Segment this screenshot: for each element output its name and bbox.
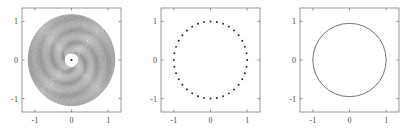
- panel-scatter-circle: -101-101: [139, 0, 278, 136]
- y-tick-label: -1: [289, 95, 296, 104]
- scatter-point: [191, 26, 193, 28]
- scatter-point: [178, 40, 180, 42]
- x-tick-label: -1: [309, 116, 316, 125]
- x-tick-label: 0: [348, 116, 352, 125]
- scatter-point: [228, 26, 230, 28]
- panel-2-axes: -101-101: [150, 8, 260, 125]
- scatter-point: [241, 78, 243, 80]
- scatter-point: [244, 72, 246, 74]
- scatter-point: [216, 21, 218, 23]
- scatter-point: [197, 95, 199, 97]
- scatter-point: [191, 92, 193, 94]
- scatter-point: [173, 59, 175, 61]
- y-tick-label: 0: [292, 56, 296, 65]
- x-tick-label: 1: [384, 116, 388, 125]
- y-tick-label: -1: [150, 95, 157, 104]
- scatter-point: [210, 21, 212, 23]
- y-tick-label: 1: [153, 17, 157, 26]
- panel-spiral-rings: -101-101: [0, 0, 139, 136]
- three-panel-figure: -101-101 -101-101 -101-101: [0, 0, 417, 136]
- scatter-point: [246, 59, 248, 61]
- y-tick-label: 1: [292, 17, 296, 26]
- panel-unit-circle: -101-101: [278, 0, 417, 136]
- center-point: [70, 59, 72, 61]
- scatter-point: [246, 66, 248, 68]
- x-tick-label: 0: [209, 116, 213, 125]
- scatter-point: [238, 84, 240, 86]
- scatter-point: [246, 52, 248, 54]
- panel-2-svg: -101-101: [139, 0, 278, 136]
- scatter-point: [181, 84, 183, 86]
- panel-1-axes: -101-101: [11, 8, 121, 125]
- scatter-point: [175, 46, 177, 48]
- scatter-point: [203, 97, 205, 99]
- scatter-point: [233, 89, 235, 91]
- x-tick-label: 1: [106, 116, 110, 125]
- scatter-point: [222, 95, 224, 97]
- y-tick-label: 0: [14, 56, 18, 65]
- panel-3-axes: -101-101: [289, 8, 399, 125]
- scatter-point: [175, 72, 177, 74]
- scatter-point: [244, 46, 246, 48]
- scatter-point: [210, 98, 212, 100]
- scatter-point: [186, 89, 188, 91]
- scatter-point: [173, 52, 175, 54]
- unit-circle-path: [313, 23, 386, 96]
- scatter-point-group: [173, 21, 248, 100]
- y-tick-label: -1: [11, 95, 18, 104]
- y-tick-label: 1: [14, 17, 18, 26]
- x-tick-label: -1: [170, 116, 177, 125]
- scatter-point: [197, 23, 199, 25]
- scatter-point: [216, 97, 218, 99]
- scatter-point: [241, 40, 243, 42]
- scatter-point: [222, 23, 224, 25]
- panel-1-svg: -101-101: [0, 0, 139, 136]
- x-tick-label: -1: [31, 116, 38, 125]
- x-tick-label: 0: [70, 116, 74, 125]
- scatter-point: [203, 21, 205, 23]
- x-tick-label: 1: [245, 116, 249, 125]
- scatter-point: [173, 66, 175, 68]
- scatter-point: [181, 34, 183, 36]
- panel-3-svg: -101-101: [278, 0, 417, 136]
- scatter-point: [238, 34, 240, 36]
- scatter-point: [178, 78, 180, 80]
- y-tick-label: 0: [153, 56, 157, 65]
- scatter-point: [233, 30, 235, 32]
- scatter-point: [228, 92, 230, 94]
- scatter-point: [186, 30, 188, 32]
